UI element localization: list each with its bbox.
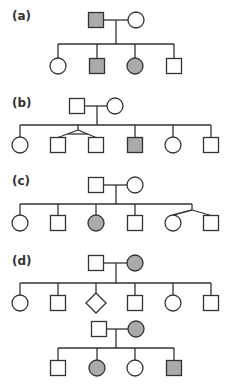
male-square [204,296,219,311]
female-circle [12,215,28,231]
male-square [204,216,219,231]
pedigree-line [192,210,211,216]
affected-male-square [90,59,105,74]
male-square [89,178,104,193]
female-circle [12,137,28,153]
affected-female-circle [89,360,105,376]
male-square [128,216,143,231]
female-circle [107,98,123,114]
female-circle [12,295,28,311]
female-circle [165,215,181,231]
male-square [92,322,107,337]
pedigree-line [173,210,192,215]
male-square [51,296,66,311]
male-square [128,296,143,311]
male-square [51,216,66,231]
affected-male-square [89,13,104,28]
affected-male-square [128,138,143,153]
male-square [51,138,66,153]
affected-male-square [167,361,182,376]
male-square [89,256,104,271]
affected-female-circle [128,321,144,337]
female-circle [128,12,144,28]
female-circle [165,295,181,311]
male-square [89,138,104,153]
pedigree-diagram [0,0,226,386]
unknown-sex-diamond [86,293,106,313]
female-circle [127,360,143,376]
female-circle [165,137,181,153]
male-square [70,99,85,114]
female-circle [50,58,66,74]
female-circle [127,177,143,193]
male-square [51,361,66,376]
affected-female-circle [127,58,143,74]
male-square [167,59,182,74]
male-square [204,138,219,153]
affected-female-circle [127,255,143,271]
affected-female-circle [88,215,104,231]
